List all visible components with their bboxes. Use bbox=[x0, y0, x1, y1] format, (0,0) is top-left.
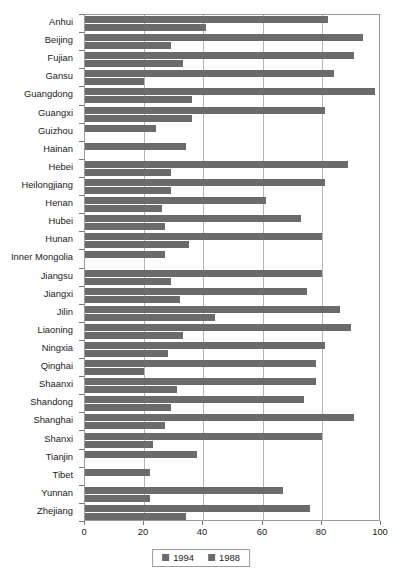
bar-1988 bbox=[85, 161, 348, 168]
legend-label: 1988 bbox=[219, 552, 240, 563]
x-axis-tick bbox=[380, 521, 381, 525]
bar-group bbox=[85, 179, 379, 197]
bar-1988 bbox=[85, 342, 325, 349]
bar-group bbox=[85, 270, 379, 288]
x-axis-tick-label: 0 bbox=[81, 526, 86, 537]
bar-group bbox=[85, 396, 379, 414]
bar-group bbox=[85, 451, 379, 469]
bar-group bbox=[85, 414, 379, 432]
bar-1988 bbox=[85, 16, 328, 23]
y-axis-label: Gansu bbox=[45, 71, 73, 81]
y-axis-label: Guizhou bbox=[38, 126, 73, 136]
bar-1988 bbox=[85, 324, 351, 331]
bar-1994 bbox=[85, 513, 186, 520]
x-axis: 020406080100 bbox=[84, 521, 380, 541]
bar-1988 bbox=[85, 270, 322, 277]
y-axis-label: Hubei bbox=[49, 216, 74, 226]
y-axis-label: Shandong bbox=[30, 397, 73, 407]
bar-group bbox=[85, 215, 379, 233]
bar-1988 bbox=[85, 52, 354, 59]
y-axis-label: Jiangsu bbox=[41, 271, 73, 281]
x-axis-tick bbox=[321, 521, 322, 525]
bar-1994 bbox=[85, 241, 189, 248]
bar-1994 bbox=[85, 495, 150, 502]
bar-group bbox=[85, 88, 379, 106]
y-axis-label: Tianjin bbox=[46, 452, 73, 462]
bar-1994 bbox=[85, 386, 177, 393]
bar-1988 bbox=[85, 88, 375, 95]
bar-1994 bbox=[85, 78, 144, 85]
y-axis-label: Hebei bbox=[49, 162, 74, 172]
y-axis-label: Yunnan bbox=[41, 488, 73, 498]
bar-1994 bbox=[85, 169, 171, 176]
y-axis-label: Qinghai bbox=[41, 361, 73, 371]
bar-1988 bbox=[85, 378, 316, 385]
bar-1994 bbox=[85, 187, 171, 194]
bar-group bbox=[85, 161, 379, 179]
y-axis-label: Liaoning bbox=[38, 325, 73, 335]
bar-1988 bbox=[85, 396, 304, 403]
legend-label: 1994 bbox=[173, 552, 194, 563]
chart-legend: 19941988 bbox=[152, 549, 250, 567]
x-axis-tick bbox=[84, 521, 85, 525]
bar-1988 bbox=[85, 143, 186, 150]
bar-group bbox=[85, 233, 379, 251]
bar-1994 bbox=[85, 42, 171, 49]
bar-1988 bbox=[85, 360, 316, 367]
y-axis-label: Ningxia bbox=[42, 343, 73, 353]
bar-1994 bbox=[85, 278, 171, 285]
bar-group bbox=[85, 251, 379, 269]
bar-group bbox=[85, 288, 379, 306]
y-axis-label: Shanxi bbox=[44, 434, 73, 444]
bar-group bbox=[85, 360, 379, 378]
x-axis-tick-label: 40 bbox=[197, 526, 207, 537]
bar-1994 bbox=[85, 296, 180, 303]
bar-group bbox=[85, 125, 379, 143]
bar-1988 bbox=[85, 306, 340, 313]
bar-group bbox=[85, 107, 379, 125]
bar-1988 bbox=[85, 433, 322, 440]
bar-1988 bbox=[85, 215, 301, 222]
y-axis-label: Shanghai bbox=[33, 415, 73, 425]
bar-1988 bbox=[85, 288, 307, 295]
x-axis-tick-label: 60 bbox=[257, 526, 267, 537]
y-axis-label: Guangdong bbox=[24, 89, 73, 99]
bar-1988 bbox=[85, 197, 266, 204]
bar-1988 bbox=[85, 107, 325, 114]
bar-group bbox=[85, 70, 379, 88]
bar-1988 bbox=[85, 179, 325, 186]
bar-1988 bbox=[85, 469, 150, 476]
x-axis-tick-label: 20 bbox=[138, 526, 148, 537]
y-axis-label: Shaanxi bbox=[39, 379, 73, 389]
bar-1994 bbox=[85, 332, 183, 339]
bar-1988 bbox=[85, 251, 165, 258]
x-axis-tick-label: 100 bbox=[372, 526, 388, 537]
y-axis-label: Fujian bbox=[47, 53, 73, 63]
bar-group bbox=[85, 487, 379, 505]
bar-1994 bbox=[85, 422, 165, 429]
y-axis-label: Beijing bbox=[45, 35, 73, 45]
y-axis-label: Jiangxi bbox=[44, 289, 73, 299]
y-axis-label: Hainan bbox=[43, 144, 73, 154]
legend-swatch-icon bbox=[208, 554, 215, 561]
bar-group bbox=[85, 197, 379, 215]
y-axis-label: Hunan bbox=[45, 234, 73, 244]
bar-1988 bbox=[85, 487, 283, 494]
bar-group bbox=[85, 306, 379, 324]
x-axis-tick bbox=[262, 521, 263, 525]
y-axis-label: Heilongjiang bbox=[21, 180, 73, 190]
bar-1994 bbox=[85, 24, 206, 31]
bar-1988 bbox=[85, 451, 197, 458]
y-axis-label: Tibet bbox=[53, 470, 74, 480]
bar-1988 bbox=[85, 70, 334, 77]
plot-area bbox=[84, 14, 380, 521]
y-axis-label: Anhui bbox=[49, 17, 73, 27]
y-axis-label: Zhejiang bbox=[37, 506, 73, 516]
x-axis-tick bbox=[202, 521, 203, 525]
legend-item[interactable]: 1988 bbox=[208, 552, 240, 563]
bar-group bbox=[85, 324, 379, 342]
bar-1988 bbox=[85, 34, 363, 41]
bar-1994 bbox=[85, 368, 144, 375]
y-axis-label: Jilin bbox=[57, 307, 73, 317]
legend-item[interactable]: 1994 bbox=[162, 552, 194, 563]
